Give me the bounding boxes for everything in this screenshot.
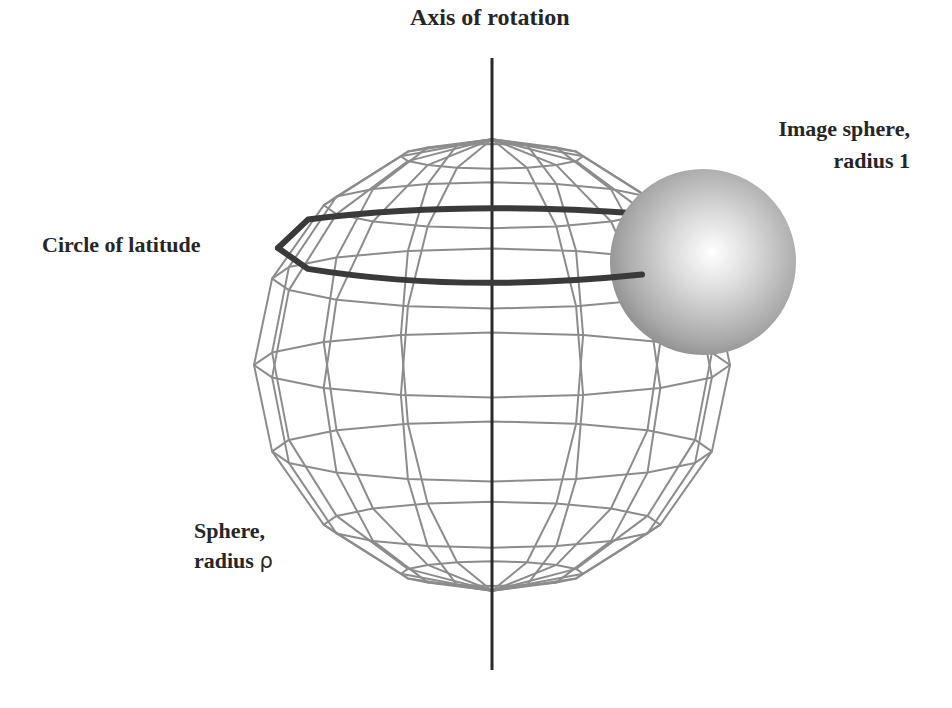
image-sphere-label: Image sphere, radius 1 xyxy=(720,116,910,174)
sphere-label: Sphere, radius ρ xyxy=(194,518,273,574)
figure-canvas xyxy=(0,0,952,708)
sphere-label-line2: radius ρ xyxy=(194,548,273,574)
sphere-radius-text: radius xyxy=(194,548,254,573)
image-sphere-label-line2: radius 1 xyxy=(720,148,910,174)
image-sphere-label-line1: Image sphere, xyxy=(720,116,910,142)
image-sphere xyxy=(610,169,796,355)
axis-of-rotation-label: Axis of rotation xyxy=(410,4,570,30)
rho-symbol: ρ xyxy=(259,549,272,573)
diagram: Axis of rotation Image sphere, radius 1 … xyxy=(0,0,952,708)
circle-of-latitude-label: Circle of latitude xyxy=(42,232,200,258)
sphere-label-line1: Sphere, xyxy=(194,518,273,544)
